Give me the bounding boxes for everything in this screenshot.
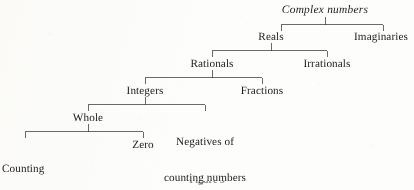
- node-negatives-line-1: Negatives of: [164, 136, 246, 148]
- figure-complex-numbers-tree: Complex numbers Reals Imaginaries Ration…: [0, 0, 414, 190]
- node-integers: Integers: [127, 85, 164, 97]
- node-rationals: Rationals: [190, 58, 233, 70]
- node-counting-line-1: Counting: [2, 163, 44, 175]
- node-reals: Reals: [258, 31, 283, 43]
- node-imaginaries: Imaginaries: [354, 31, 408, 43]
- node-fractions: Fractions: [241, 85, 284, 97]
- figure-caption-clipped: Figure 3: [0, 181, 414, 190]
- node-whole: Whole: [73, 112, 103, 124]
- figure-caption-text: Figure 3: [189, 181, 225, 185]
- node-complex-numbers: Complex numbers: [282, 4, 368, 16]
- node-irrationals: Irrationals: [303, 58, 350, 70]
- node-zero: Zero: [132, 139, 154, 151]
- node-negatives-of-counting-numbers: Negatives of counting numbers: [164, 112, 246, 190]
